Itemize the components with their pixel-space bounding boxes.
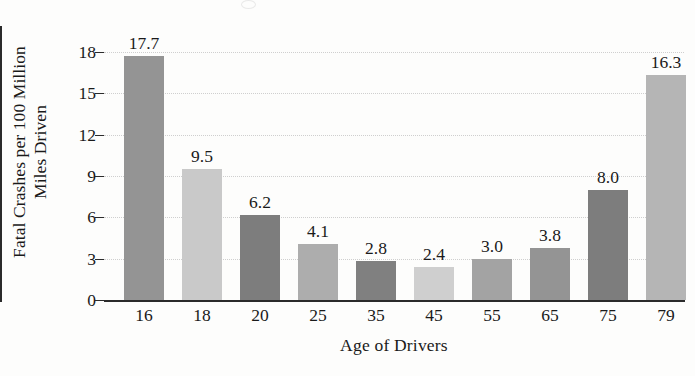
x-axis-tick-label: 35: [356, 305, 396, 326]
y-axis-tick-label: 3: [62, 248, 96, 269]
bar[interactable]: 3.8: [530, 248, 570, 300]
bar-fill: [414, 267, 454, 300]
bar-value-label: 2.4: [423, 244, 445, 265]
x-axis-title: Age of Drivers: [104, 335, 684, 356]
bar-value-label: 2.8: [365, 238, 387, 259]
y-axis-line: [0, 26, 2, 302]
bar-fill: [472, 259, 512, 300]
bar-value-label: 4.1: [307, 221, 329, 242]
bar-value-label: 6.2: [249, 192, 271, 213]
y-axis-tick: [95, 176, 104, 177]
y-axis-tick: [95, 93, 104, 94]
y-axis-title: Fatal Crashes per 100 Million Miles Driv…: [4, 2, 56, 302]
x-axis-tick-label: 18: [182, 305, 222, 326]
x-axis-tick-label: 45: [414, 305, 454, 326]
y-axis-tick: [95, 259, 104, 260]
x-axis-tick-label: 75: [588, 305, 628, 326]
bar-fill: [124, 56, 164, 300]
bar-fill: [646, 75, 686, 300]
scan-artifact: [241, 0, 256, 9]
x-axis-tick-label: 25: [298, 305, 338, 326]
y-axis-tick-label: 9: [62, 166, 96, 187]
bar-chart-figure: Fatal Crashes per 100 Million Miles Driv…: [0, 0, 695, 376]
bar[interactable]: 9.5: [182, 169, 222, 300]
bar[interactable]: 4.1: [298, 244, 338, 300]
y-axis-tick-label: 18: [62, 42, 96, 63]
y-axis-tick: [95, 135, 104, 136]
bar-value-label: 9.5: [191, 146, 213, 167]
gridline: [104, 135, 684, 137]
y-axis-tick-label: 6: [62, 207, 96, 228]
bar-fill: [298, 244, 338, 300]
bar-fill: [240, 215, 280, 300]
x-axis-line: [104, 300, 685, 302]
bar[interactable]: 6.2: [240, 215, 280, 300]
gridline: [104, 52, 684, 54]
x-axis-tick-label: 16: [124, 305, 164, 326]
x-axis-tick-label: 79: [646, 305, 686, 326]
x-axis-tick-labels: 16182025354555657579: [104, 305, 684, 331]
bar[interactable]: 2.4: [414, 267, 454, 300]
x-axis-tick-label: 65: [530, 305, 570, 326]
y-axis-title-line-2: Miles Driven: [30, 105, 51, 199]
bar-value-label: 17.7: [129, 33, 160, 54]
bar[interactable]: 8.0: [588, 190, 628, 300]
bar[interactable]: 3.0: [472, 259, 512, 300]
bar-value-label: 3.0: [481, 236, 503, 257]
bar[interactable]: 17.7: [124, 56, 164, 300]
bar-fill: [588, 190, 628, 300]
bar-fill: [356, 261, 396, 300]
bar-fill: [530, 248, 570, 300]
bar[interactable]: 16.3: [646, 75, 686, 300]
y-axis-tick-label: 0: [62, 290, 96, 311]
y-axis-tick-labels: 0369121518: [58, 26, 96, 300]
x-axis-tick-label: 20: [240, 305, 280, 326]
bar-value-label: 3.8: [539, 225, 561, 246]
y-axis-tick: [95, 217, 104, 218]
y-axis-tick-label: 15: [62, 83, 96, 104]
plot-area: 17.79.56.24.12.82.43.03.88.016.3: [104, 26, 684, 300]
bar-fill: [182, 169, 222, 300]
bar-value-label: 16.3: [651, 52, 682, 73]
y-axis-tick: [95, 52, 104, 53]
gridline: [104, 93, 684, 95]
bar-value-label: 8.0: [597, 167, 619, 188]
y-axis-tick: [95, 300, 104, 301]
bar[interactable]: 2.8: [356, 261, 396, 300]
x-axis-tick-label: 55: [472, 305, 512, 326]
y-axis-title-line-1: Fatal Crashes per 100 Million: [9, 46, 30, 258]
y-axis-tick-label: 12: [62, 124, 96, 145]
